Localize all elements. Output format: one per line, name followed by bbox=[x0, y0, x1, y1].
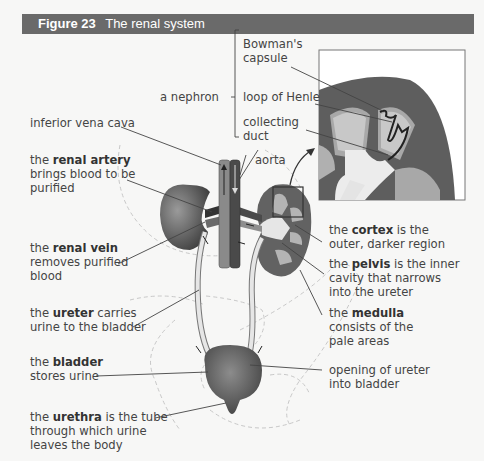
zoom-arrow bbox=[290, 150, 312, 185]
bladder bbox=[204, 345, 262, 414]
ureter-opening-label: opening of ureter into bladder bbox=[329, 363, 430, 391]
renal-vein-label: the renal vein removes purified blood bbox=[30, 241, 128, 283]
renal-artery-label: the renal artery brings blood to be puri… bbox=[30, 153, 135, 195]
urethra-label: the urethra is the tube through which ur… bbox=[30, 410, 168, 452]
collecting-duct-label: collecting duct bbox=[243, 115, 303, 143]
nephron-label: a nephron bbox=[160, 90, 219, 104]
inferior-vena-cava-label: inferior vena cava bbox=[30, 116, 135, 130]
loop-of-henle-label: loop of Henle bbox=[243, 90, 320, 104]
bladder-label: the bladder stores urine bbox=[30, 355, 103, 383]
aorta-label: aorta bbox=[255, 153, 286, 167]
bowmans-capsule-label: Bowman's capsule bbox=[243, 37, 303, 65]
pelvis-label: the pelvis is the inner cavity that narr… bbox=[329, 257, 459, 299]
ureter-label: the ureter carries urine to the bladder bbox=[30, 306, 146, 334]
kidney-inset bbox=[319, 50, 465, 200]
medulla-label: the medulla consists of the pale areas bbox=[329, 306, 413, 348]
cortex-label: the cortex is the outer, darker region bbox=[329, 223, 445, 251]
nephron-bracket bbox=[231, 30, 239, 137]
